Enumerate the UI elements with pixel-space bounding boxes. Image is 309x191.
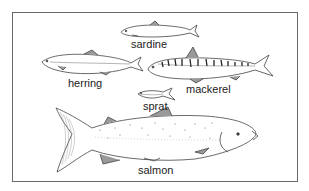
fish-illustration [0, 0, 309, 191]
salmon-label: salmon [138, 164, 173, 176]
salmon-icon [56, 107, 258, 172]
sprat-label: sprat [143, 100, 167, 112]
mackerel-label: mackerel [186, 83, 231, 95]
sprat-icon [138, 88, 175, 100]
herring-icon [42, 50, 143, 75]
sardine-label: sardine [131, 38, 167, 50]
sardine-icon [121, 21, 199, 37]
mackerel-icon [148, 47, 273, 83]
herring-label: herring [68, 77, 102, 89]
